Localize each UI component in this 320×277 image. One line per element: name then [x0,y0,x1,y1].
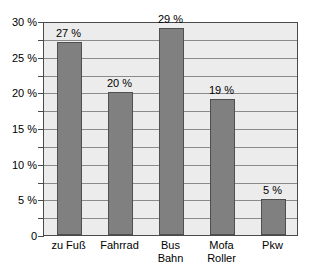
bar [108,92,133,235]
bar [210,99,235,235]
x-axis-tick-label: BusBahn [158,239,184,265]
y-axis-tickmark [38,236,43,237]
x-axis-tick-label: MofaRoller [207,239,236,265]
x-axis-tick-label: Pkw [262,239,283,252]
x-axis-tick-label-line: Mofa [207,239,236,252]
bar-value-label: 19 % [209,85,234,96]
x-axis-tick-label-line: Roller [207,252,236,265]
plot-area [43,22,298,236]
x-axis-tick-label-line: Fahrrad [100,239,139,252]
y-axis-tick-label: 10 % [0,159,37,170]
x-axis-tick-label-line: Bus [158,239,184,252]
y-axis-tick-label: 5 % [0,195,37,206]
y-axis-tick-label: 20 % [0,88,37,99]
y-axis-labels: 30 %25 %20 %15 %10 %5 %0 [0,0,37,277]
y-axis-tick-label: 25 % [0,52,37,63]
x-axis-tick-label-line: zu Fuß [51,239,85,252]
bar [57,42,82,235]
y-axis-tick-label: 30 % [0,17,37,28]
x-axis-tick-label-line: Pkw [262,239,283,252]
bar-value-label: 29 % [158,14,183,25]
y-axis-tick-label: 15 % [0,124,37,135]
bar [261,199,286,235]
bar-value-label: 20 % [107,78,132,89]
y-axis-tick-label: 0 [0,231,37,242]
x-axis-labels: zu FußFahrradBusBahnMofaRollerPkw [43,239,298,277]
x-axis-tick-label: zu Fuß [51,239,85,252]
bar-value-label: 5 % [263,185,282,196]
bar-chart: 30 %25 %20 %15 %10 %5 %0 27 %20 %29 %19 … [0,0,320,277]
x-axis-tick-label: Fahrrad [100,239,139,252]
bar-value-label: 27 % [56,28,81,39]
x-axis-tick-label-line: Bahn [158,252,184,265]
bar [159,28,184,235]
